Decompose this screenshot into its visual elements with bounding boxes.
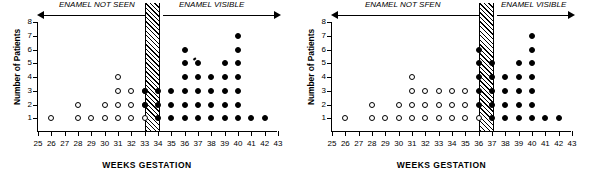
chart-panel-left: Number of Patients ENAMEL NOT SEEN ENAME… [0,0,294,173]
annotation-line-visible-left [163,15,275,16]
annotation-line-not-seen-right [337,15,482,16]
x-tick-30 [105,131,106,136]
x-tick-26 [345,131,346,136]
data-point [556,115,562,121]
data-point [128,102,134,108]
annotation-group-right: ENAMEL NOT SFEN ENAMEL VISIBLE [331,0,576,22]
data-point [409,102,415,108]
x-tick-40 [532,131,533,136]
x-tick-36 [185,131,186,136]
x-tick-35 [465,131,466,136]
y-tick-label-5: 5 [312,58,326,67]
data-point [476,47,482,53]
y-tick-label-6: 6 [18,45,32,54]
x-tick-36 [479,131,480,136]
data-point [182,115,188,121]
y-tick-label-1: 1 [18,113,32,122]
enamel-gestation-figure: Number of Patients ENAMEL NOT SEEN ENAME… [0,0,589,173]
data-point [115,74,121,80]
data-point [516,88,522,94]
data-point [409,74,415,80]
data-point [115,102,121,108]
data-point [222,60,228,66]
data-point [222,102,228,108]
y-tick-label-6: 6 [312,45,326,54]
y-tick-label-1: 1 [312,113,326,122]
y-tick-label-8: 8 [18,17,32,26]
annotation-line-not-seen-left [43,15,155,16]
x-tick-25 [332,131,333,136]
data-point [396,102,402,108]
plot-area-right: 12345678 2526272829303132333435363738394… [331,22,571,132]
arrow-right-icon-right-panel [568,11,575,19]
data-point [529,102,535,108]
x-tick-31 [412,131,413,136]
x-tick-38 [505,131,506,136]
y-tick-label-3: 3 [18,86,32,95]
plot-area-left: 12345678 2526272829303132333435363738394… [37,22,277,132]
arrow-left-icon-right-panel [331,11,338,19]
annotation-label-enamel-not-seen-right: ENAMEL NOT SFEN [365,0,440,9]
annotation-label-enamel-visible-left: ENAMEL VISIBLE [179,0,244,9]
annotation-line-visible-right [497,15,569,16]
data-point [436,102,442,108]
x-tick-29 [385,131,386,136]
data-point [476,88,482,94]
data-point [195,102,201,108]
data-point [396,115,402,121]
x-tick-39 [225,131,226,136]
data-point [235,47,241,53]
x-tick-label-43: 43 [564,139,580,148]
data-point [142,88,148,94]
data-point [516,115,522,121]
data-point [222,88,228,94]
data-point [422,102,428,108]
data-point [436,88,442,94]
x-tick-28 [372,131,373,136]
data-point [222,115,228,121]
data-point [436,115,442,121]
data-point [529,88,535,94]
x-tick-28 [78,131,79,136]
x-tick-25 [38,131,39,136]
data-point [182,47,188,53]
data-point [195,88,201,94]
y-tick-label-2: 2 [312,100,326,109]
x-tick-34 [452,131,453,136]
x-tick-43 [572,131,573,136]
x-tick-26 [51,131,52,136]
x-tick-43 [278,131,279,136]
x-tick-29 [91,131,92,136]
x-tick-41 [251,131,252,136]
annotation-label-enamel-visible-right: ENAMEL VISIBLE [501,0,566,9]
x-tick-39 [519,131,520,136]
data-point [75,102,81,108]
data-point [155,88,161,94]
data-point [529,47,535,53]
data-point [168,102,174,108]
x-tick-41 [545,131,546,136]
data-point [102,102,108,108]
data-point [142,102,148,108]
data-point [476,102,482,108]
data-point [235,88,241,94]
data-point [142,115,148,121]
chart-panel-right: Number of Patients ENAMEL NOT SFEN ENAME… [294,0,589,173]
data-point [182,60,188,66]
x-tick-37 [492,131,493,136]
y-tick-label-3: 3 [312,86,326,95]
x-tick-32 [425,131,426,136]
arrow-left-icon-left-panel [37,11,44,19]
data-point [489,88,495,94]
data-point [516,60,522,66]
y-tick-label-4: 4 [312,72,326,81]
x-tick-31 [118,131,119,136]
data-point [529,74,535,80]
data-point [502,102,508,108]
arrow-right-icon-left-panel [274,11,281,19]
data-point [449,88,455,94]
x-tick-34 [158,131,159,136]
data-point [516,74,522,80]
data-point [476,115,482,121]
data-point [516,102,522,108]
